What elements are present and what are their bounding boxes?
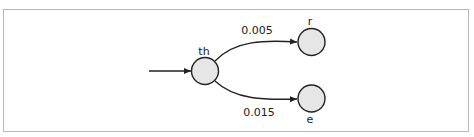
node-label: r xyxy=(308,15,313,28)
node-label: e xyxy=(307,113,314,126)
edge-th-to-r xyxy=(215,41,297,61)
node-label: th xyxy=(198,45,209,58)
node-e: e xyxy=(298,85,325,126)
edge-th-to-e xyxy=(215,81,297,99)
node-circle xyxy=(192,58,219,85)
node-circle xyxy=(298,29,325,56)
edge-label-th-to-e: 0.015 xyxy=(243,106,275,119)
edge-label-th-to-r: 0.005 xyxy=(241,24,273,37)
node-r: r xyxy=(298,15,325,56)
node-circle xyxy=(298,85,325,112)
state-diagram: 0.005 0.015 th r e xyxy=(0,0,474,137)
node-th: th xyxy=(192,45,219,85)
